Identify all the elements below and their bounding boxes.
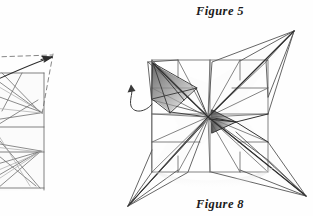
figure-8-center-hub [199, 111, 217, 125]
origami-diagram-artwork [0, 0, 313, 216]
figure-8-caption: Figure 8 [196, 197, 244, 212]
figure-8-drawing [128, 31, 307, 206]
figure-5-caption: Figure 5 [196, 4, 244, 19]
figure-8-fold-arrowhead [128, 85, 136, 93]
drawing-canvas: Figure 5 Figure 8 [0, 0, 313, 216]
figure-5-drawing [0, 54, 53, 191]
